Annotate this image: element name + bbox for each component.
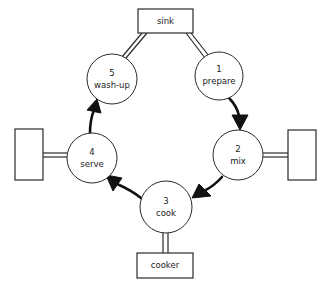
cooker-label: cooker: [151, 260, 180, 270]
node-number: 5: [109, 68, 114, 78]
node-2-mix: 2 mix: [213, 130, 263, 180]
right-station-box: [288, 130, 316, 180]
node-number: 3: [163, 196, 168, 206]
left-station-box: [15, 129, 43, 180]
node-3-cook: 3 cook: [140, 181, 192, 233]
sink-label: sink: [157, 16, 174, 26]
arrow-3-to-4: [106, 175, 141, 198]
arrow-2-to-3: [192, 177, 222, 198]
node-number: 4: [89, 147, 94, 157]
arrow-4-to-5: [87, 99, 101, 133]
node-1-prepare: 1 prepare: [195, 52, 243, 100]
sink-box: sink: [138, 9, 193, 33]
node-number: 2: [235, 144, 240, 154]
left-station-connector: [43, 153, 67, 157]
node-label: wash-up: [94, 80, 130, 90]
node-number: 1: [216, 64, 221, 74]
arrow-1-to-2: [229, 98, 248, 130]
cooker-box: cooker: [137, 253, 193, 278]
process-cycle-diagram: sink cooker 1 prepare 2 mix 3 cook: [0, 0, 325, 288]
cooker-connector: [163, 233, 168, 253]
node-label: serve: [80, 159, 103, 169]
right-station-connector: [263, 153, 288, 157]
sink-connector-left: [122, 33, 147, 58]
arrowhead-icon: [232, 115, 248, 130]
node-label: prepare: [202, 76, 235, 86]
node-label: mix: [230, 156, 246, 166]
node-5-wash-up: 5 wash-up: [87, 54, 137, 104]
arrowhead-icon: [192, 184, 211, 198]
node-4-serve: 4 serve: [67, 133, 117, 183]
arrowhead-icon: [87, 99, 101, 113]
node-label: cook: [156, 208, 176, 218]
sink-connector-right: [186, 33, 209, 58]
